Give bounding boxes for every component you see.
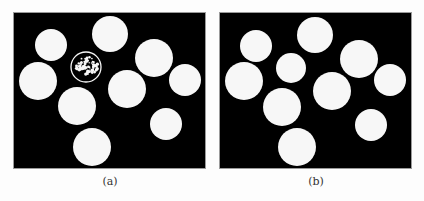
circle-object [35,29,67,61]
circle-object [263,88,301,126]
circle-object [135,39,173,77]
panel-a-circles [14,13,207,170]
caption-a: (a) [80,175,140,188]
panel-a-image [13,12,206,169]
panel-b-image [219,12,412,169]
circle-object [313,72,351,110]
circle-object [374,64,406,96]
circle-object [340,40,378,78]
circle-object [297,17,333,53]
circle-object [169,64,201,96]
circle-object [276,53,306,83]
speckled-ring-object [71,52,101,82]
circle-object [225,62,263,100]
circle-object [278,128,316,166]
circle-object [240,30,272,62]
circle-object [150,108,182,140]
circle-object [92,16,128,52]
circle-object [73,128,111,166]
panel-b-circles [220,13,413,170]
circle-object [355,109,387,141]
circle-object [108,70,146,108]
caption-b: (b) [286,175,346,188]
circle-object [58,87,96,125]
circle-object [19,62,57,100]
